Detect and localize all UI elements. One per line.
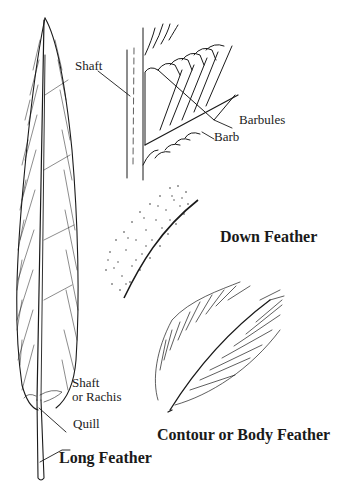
barb-detail-drawing — [98, 24, 238, 180]
label-quill: Quill — [73, 417, 100, 431]
label-shaft-detail: Shaft — [75, 59, 102, 73]
long-feather-drawing — [17, 18, 78, 480]
label-barbules: Barbules — [239, 113, 285, 127]
title-down-feather: Down Feather — [220, 228, 317, 246]
title-contour-feather: Contour or Body Feather — [157, 426, 330, 444]
label-or-rachis: or Rachis — [72, 390, 121, 404]
title-long-feather: Long Feather — [59, 449, 152, 467]
contour-feather-drawing — [155, 282, 284, 412]
label-barb: Barb — [214, 130, 239, 144]
label-shaft-long: Shaft — [72, 376, 99, 390]
down-feather-drawing — [105, 185, 198, 298]
